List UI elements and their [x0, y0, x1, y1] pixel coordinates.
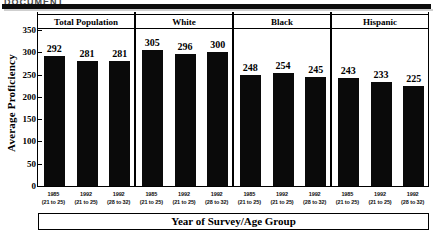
x-tick-age-group: (21 to 25) [232, 199, 266, 207]
y-axis-tick-label: 300 [14, 48, 36, 57]
y-axis-tick-label: 150 [14, 115, 36, 124]
x-axis-tick-label: 1992(28 to 32) [396, 191, 430, 206]
chart-panel-white: White305296300 [135, 12, 233, 187]
x-axis-tick-label: 1985(21 to 25) [36, 191, 70, 206]
panel-title: Black [233, 14, 331, 29]
bar-value-label: 225 [398, 74, 430, 84]
bar-value-label: 305 [136, 38, 168, 48]
x-axis-tick-label: 1985(21 to 25) [330, 191, 364, 206]
x-tick-age-group: (21 to 25) [265, 199, 299, 207]
y-axis-tick-label: 100 [14, 137, 36, 146]
x-tick-year: 1985 [36, 191, 70, 199]
x-tick-year: 1992 [167, 191, 201, 199]
y-axis-ticks: 050100150200250300350 [10, 12, 36, 231]
chart-panel-total-population: Total Population292281281 [37, 12, 135, 187]
chart-panel-hispanic: Hispanic243233225 [331, 12, 429, 187]
chart-panel-black: Black248254245 [233, 12, 331, 187]
x-tick-year: 1985 [134, 191, 168, 199]
x-tick-age-group: (28 to 32) [396, 199, 430, 207]
x-tick-age-group: (21 to 25) [36, 199, 70, 207]
bar [44, 56, 65, 186]
x-axis-title: Year of Survey/Age Group [38, 213, 429, 230]
x-tick-age-group: (21 to 25) [134, 199, 168, 207]
bar [273, 73, 294, 186]
bar-value-label: 248 [234, 63, 266, 73]
x-axis-tick-label: 1992(21 to 25) [167, 191, 201, 206]
x-tick-year: 1992 [265, 191, 299, 199]
bar-value-label: 245 [300, 65, 332, 75]
bar [142, 50, 163, 186]
x-tick-age-group: (28 to 32) [200, 199, 234, 207]
y-axis-tick-label: 0 [14, 182, 36, 191]
y-axis-tick-label: 350 [14, 26, 36, 35]
x-axis-tick-labels: 1985(21 to 25)1992(21 to 25)1992(28 to 3… [37, 189, 429, 213]
x-axis-tick-label: 1992(28 to 32) [102, 191, 136, 206]
bar [109, 61, 130, 186]
x-axis-tick-label: 1992(21 to 25) [363, 191, 397, 206]
x-tick-year: 1992 [200, 191, 234, 199]
x-axis-tick-label: 1992(28 to 32) [200, 191, 234, 206]
x-axis-tick-label: 1992(21 to 25) [265, 191, 299, 206]
panel-title: Hispanic [331, 14, 429, 29]
bar-value-label: 233 [365, 70, 397, 80]
x-tick-age-group: (28 to 32) [102, 199, 136, 207]
document-rule-shadow [4, 9, 433, 11]
bar-value-label: 300 [202, 40, 234, 50]
bar-value-label: 281 [104, 49, 136, 59]
x-tick-year: 1985 [232, 191, 266, 199]
y-axis-tick-label: 200 [14, 92, 36, 101]
bar [305, 77, 326, 186]
bar [371, 82, 392, 186]
x-tick-year: 1992 [69, 191, 103, 199]
bar [338, 78, 359, 186]
bar-value-label: 296 [169, 42, 201, 52]
x-tick-year: 1992 [298, 191, 332, 199]
x-axis-tick-label: 1985(21 to 25) [134, 191, 168, 206]
bar-value-label: 254 [267, 61, 299, 71]
x-axis-tick-label: 1992(21 to 25) [69, 191, 103, 206]
x-tick-year: 1985 [330, 191, 364, 199]
y-axis-tick-label: 250 [14, 70, 36, 79]
x-tick-year: 1992 [102, 191, 136, 199]
bar-value-label: 243 [332, 66, 364, 76]
bar-value-label: 292 [38, 44, 70, 54]
panel-title: Total Population [37, 14, 135, 29]
bar [240, 75, 261, 186]
plot-area: Total Population292281281White305296300B… [37, 12, 429, 187]
x-tick-age-group: (21 to 25) [330, 199, 364, 207]
bar [207, 52, 228, 186]
x-tick-age-group: (21 to 25) [167, 199, 201, 207]
panel-title: White [135, 14, 233, 29]
bar-chart: Average Proficiency 05010015020025030035… [0, 12, 433, 231]
bar [403, 86, 424, 186]
x-tick-age-group: (21 to 25) [69, 199, 103, 207]
bar-value-label: 281 [71, 49, 103, 59]
x-tick-age-group: (21 to 25) [363, 199, 397, 207]
bar [77, 61, 98, 186]
x-tick-age-group: (28 to 32) [298, 199, 332, 207]
x-axis-tick-label: 1985(21 to 25) [232, 191, 266, 206]
y-axis-tick-label: 50 [14, 159, 36, 168]
x-tick-year: 1992 [363, 191, 397, 199]
x-axis-tick-label: 1992(28 to 32) [298, 191, 332, 206]
x-tick-year: 1992 [396, 191, 430, 199]
bar [175, 54, 196, 186]
